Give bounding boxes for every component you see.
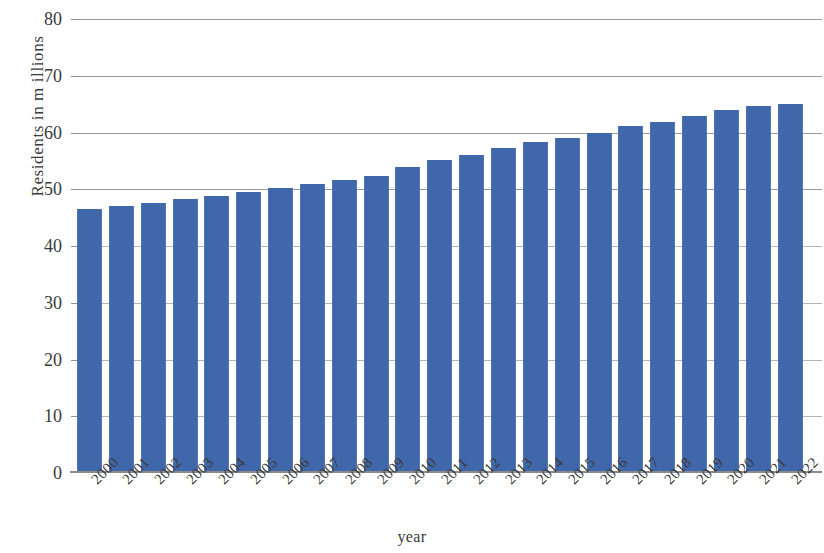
y-axis-tick-label: 40	[44, 236, 62, 257]
bar	[173, 199, 198, 473]
bar	[523, 142, 548, 473]
bar-chart: Residents in m illions 01020304050607080…	[0, 0, 824, 553]
gridline	[72, 133, 822, 134]
bar	[77, 209, 102, 473]
y-axis-tick	[71, 189, 80, 190]
bar	[332, 180, 357, 473]
bar	[236, 192, 261, 473]
y-axis-tick-label: 20	[44, 349, 62, 370]
bar	[618, 126, 643, 473]
y-axis-tick	[71, 19, 80, 20]
y-axis-tick-label: 80	[44, 9, 62, 30]
bar	[682, 116, 707, 473]
y-axis-tick	[71, 133, 80, 134]
bar	[555, 138, 580, 473]
bar	[650, 122, 675, 473]
bar	[109, 206, 134, 473]
x-axis-title: year	[0, 528, 824, 546]
bar	[587, 133, 612, 474]
plot-area: 01020304050607080	[72, 19, 822, 473]
bar	[395, 167, 420, 473]
gridline	[72, 19, 822, 20]
bar	[491, 148, 516, 473]
bar	[268, 188, 293, 473]
gridline	[72, 76, 822, 77]
y-axis-tick	[71, 76, 80, 77]
x-axis-tick-labels: 2000200120022003200420052006200720082009…	[72, 476, 822, 528]
bar	[746, 106, 771, 473]
bar	[714, 110, 739, 473]
bar	[427, 160, 452, 473]
bar	[204, 196, 229, 474]
y-axis-tick-label: 30	[44, 292, 62, 313]
bar	[300, 184, 325, 473]
bar	[141, 203, 166, 473]
bar	[459, 155, 484, 473]
y-axis-tick-label: 60	[44, 122, 62, 143]
y-axis-tick-label: 50	[44, 179, 62, 200]
y-axis-tick-label: 10	[44, 406, 62, 427]
y-axis-tick-label: 0	[53, 463, 62, 484]
bar	[778, 104, 803, 473]
bar	[364, 176, 389, 473]
y-axis-tick-label: 70	[44, 65, 62, 86]
